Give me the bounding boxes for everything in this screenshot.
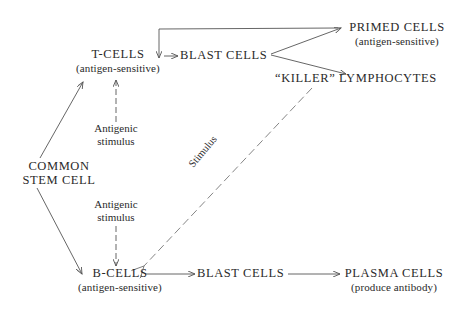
edge-stem-to-tcells xyxy=(40,82,83,158)
t-cells-title: T-CELLS xyxy=(66,48,170,62)
b-antigen-line1: Antigenic xyxy=(94,198,137,210)
edge-stem-to-bcells xyxy=(37,188,82,274)
b-cells-subtitle: (antigen-sensitive) xyxy=(68,281,172,293)
primed-title: PRIMED CELLS xyxy=(340,21,454,35)
b-cells-title: B-CELLS xyxy=(68,267,172,281)
primed-subtitle: (antigen-sensitive) xyxy=(340,35,454,47)
plasma-title: PLASMA CELLS xyxy=(342,267,446,281)
node-t-blast-cells: BLAST CELLS xyxy=(180,49,267,63)
node-b-blast-cells: BLAST CELLS xyxy=(197,267,284,281)
b-blast-title: BLAST CELLS xyxy=(197,267,284,281)
node-t-cells: T-CELLS (antigen-sensitive) xyxy=(66,48,170,74)
killer-title: “KILLER” LYMPHOCYTES xyxy=(275,72,437,86)
node-common-stem-cell: COMMON STEM CELL xyxy=(18,160,100,188)
stem-line2: STEM CELL xyxy=(18,174,100,188)
t-cells-subtitle: (antigen-sensitive) xyxy=(66,62,170,74)
t-antigenic-stimulus-label: Antigenic stimulus xyxy=(86,122,146,147)
t-antigen-line2: stimulus xyxy=(97,135,134,147)
node-primed-cells: PRIMED CELLS (antigen-sensitive) xyxy=(340,21,454,47)
stem-line1: COMMON xyxy=(18,160,100,174)
edge-killer-to-bcells xyxy=(144,88,312,266)
edge-blast-to-primed xyxy=(271,28,341,54)
plasma-subtitle: (produce antibody) xyxy=(342,281,446,293)
node-killer-lymphocytes: “KILLER” LYMPHOCYTES xyxy=(275,72,437,86)
t-antigen-line1: Antigenic xyxy=(94,122,137,134)
b-antigen-line2: stimulus xyxy=(97,211,134,223)
node-b-cells: B-CELLS (antigen-sensitive) xyxy=(68,267,172,293)
t-blast-title: BLAST CELLS xyxy=(180,49,267,63)
b-antigenic-stimulus-label: Antigenic stimulus xyxy=(86,198,146,223)
node-plasma-cells: PLASMA CELLS (produce antibody) xyxy=(342,267,446,293)
